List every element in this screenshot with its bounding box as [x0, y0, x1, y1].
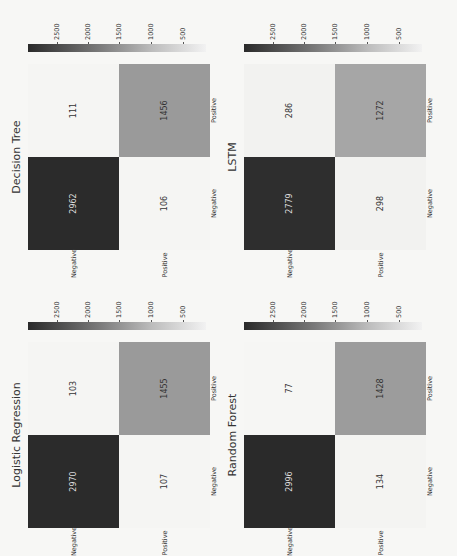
colorbar-tick: [119, 42, 120, 44]
row-label-negative: Negative: [286, 252, 294, 278]
colorbar-tick: [273, 42, 274, 44]
colorbar-label-2000: 2000: [300, 23, 308, 40]
colorbar: [244, 44, 422, 52]
row-label-positive: Positive: [161, 530, 169, 556]
cell-fn: 106: [119, 157, 210, 250]
colorbar-tick: [57, 320, 58, 322]
colorbar-label-1000: 1000: [363, 23, 371, 40]
colorbar-label-2000: 2000: [84, 301, 92, 318]
colorbar-label-1000: 1000: [363, 301, 371, 318]
colorbar: [28, 44, 206, 52]
colorbar-label-1500: 1500: [331, 301, 339, 318]
colorbar-label-2500: 2500: [269, 301, 277, 318]
panel-random-forest: Random Forest 2996 77 134 1428 Negative …: [216, 278, 444, 556]
row-label-positive: Positive: [377, 252, 385, 278]
colorbar-tick: [119, 320, 120, 322]
colorbar-tick: [57, 42, 58, 44]
cell-fp: 111: [28, 64, 119, 157]
colorbar-label-2500: 2500: [53, 301, 61, 318]
colorbar-tick: [304, 320, 305, 322]
colorbar-label-2000: 2000: [84, 23, 92, 40]
colorbar-tick: [399, 42, 400, 44]
colorbar-tick: [151, 320, 152, 322]
colorbar-tick: [335, 42, 336, 44]
colorbar: [244, 322, 422, 330]
col-label-negative: Negative: [426, 157, 434, 250]
cell-fn: 107: [119, 435, 210, 528]
row-label-positive: Positive: [161, 252, 169, 278]
colorbar-tick: [399, 320, 400, 322]
colorbar-label-1500: 1500: [115, 23, 123, 40]
cell-fp: 103: [28, 342, 119, 435]
colorbar-label-1000: 1000: [147, 301, 155, 318]
col-label-positive: Positive: [426, 342, 434, 435]
cell-tn: 2779: [244, 157, 335, 250]
colorbar: [28, 322, 206, 330]
colorbar-label-2500: 2500: [269, 23, 277, 40]
colorbar-tick: [304, 42, 305, 44]
colorbar-label-1500: 1500: [115, 301, 123, 318]
cell-tp: 1455: [119, 342, 210, 435]
row-label-positive: Positive: [377, 530, 385, 556]
panel-decision-tree: Decision Tree 2962 111 106 1456 Negative…: [0, 0, 228, 278]
cell-tn: 2970: [28, 435, 119, 528]
colorbar-label-500: 500: [395, 28, 403, 40]
colorbar-tick: [88, 42, 89, 44]
panel-title: Decision Tree: [10, 64, 23, 250]
colorbar-label-500: 500: [179, 28, 187, 40]
colorbar-tick: [273, 320, 274, 322]
col-label-negative: Negative: [426, 435, 434, 528]
col-label-positive: Positive: [426, 64, 434, 157]
panel-title: Random Forest: [226, 342, 239, 528]
cell-fn: 134: [335, 435, 426, 528]
panel-logistic-regression: Logistic Regression 2970 103 107 1455 Ne…: [0, 278, 228, 556]
panel-title: Logistic Regression: [10, 342, 23, 528]
colorbar-tick: [335, 320, 336, 322]
row-label-negative: Negative: [286, 530, 294, 556]
colorbar-label-2500: 2500: [53, 23, 61, 40]
colorbar-label-500: 500: [395, 306, 403, 318]
colorbar-label-500: 500: [179, 306, 187, 318]
panel-lstm: LSTM 2779 286 298 1272 Negative Positive…: [216, 0, 444, 278]
colorbar-label-1000: 1000: [147, 23, 155, 40]
row-label-negative: Negative: [70, 530, 78, 556]
cell-tn: 2996: [244, 435, 335, 528]
cell-fp: 286: [244, 64, 335, 157]
cell-fp: 77: [244, 342, 335, 435]
cell-tp: 1456: [119, 64, 210, 157]
colorbar-label-2000: 2000: [300, 301, 308, 318]
cell-tp: 1272: [335, 64, 426, 157]
cell-fn: 298: [335, 157, 426, 250]
cell-tp: 1428: [335, 342, 426, 435]
cell-tn: 2962: [28, 157, 119, 250]
row-label-negative: Negative: [70, 252, 78, 278]
colorbar-tick: [151, 42, 152, 44]
colorbar-tick: [367, 42, 368, 44]
colorbar-tick: [183, 320, 184, 322]
colorbar-tick: [88, 320, 89, 322]
colorbar-label-1500: 1500: [331, 23, 339, 40]
colorbar-tick: [367, 320, 368, 322]
colorbar-tick: [183, 42, 184, 44]
panel-title: LSTM: [226, 64, 239, 250]
